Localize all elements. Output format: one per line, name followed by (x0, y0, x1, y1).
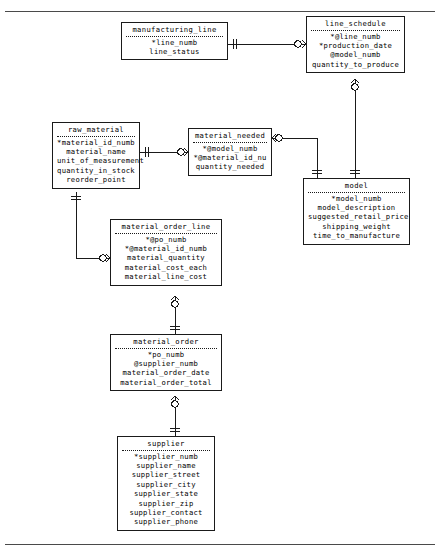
attribute: *material_id_numb (57, 138, 135, 147)
er-diagram-canvas: manufacturing_line *line_numb line_statu… (0, 0, 439, 555)
attribute-list: *supplier_numb supplier_name supplier_st… (122, 451, 210, 527)
entity-material_order_line[interactable]: material_order_line *@po_numb *@material… (110, 219, 222, 286)
entity-manufacturing_line[interactable]: manufacturing_line *line_numb line_statu… (121, 22, 228, 60)
attribute-list: *model_numb model_description suggested_… (308, 193, 405, 241)
entity-model[interactable]: model *model_numb model_description sugg… (303, 178, 410, 245)
attribute: material_quantity (115, 253, 217, 262)
attribute: material_order_date (115, 368, 217, 377)
attribute: quantity_needed (193, 162, 267, 171)
attribute: material_order_total (115, 378, 217, 387)
attribute: reorder_point (57, 175, 135, 184)
entity-name: line_schedule (311, 19, 400, 31)
entity-material_order[interactable]: material_order *po_numb @supplier_numb m… (110, 334, 222, 391)
attribute: supplier_phone (122, 517, 210, 526)
attribute: quantity_to_produce (311, 60, 400, 69)
attribute-list: *@line_numb *production_date @model_numb… (311, 31, 400, 70)
attribute: material_cost_each (115, 263, 217, 272)
entity-name: material_order (115, 337, 217, 349)
attribute: *@model_numb (193, 144, 267, 153)
attribute: quantity_in_stock (57, 166, 135, 175)
attribute: material_name (57, 147, 135, 156)
entity-name: supplier (122, 439, 210, 451)
attribute: *line_numb (126, 38, 223, 47)
attribute-list: *@po_numb *@material_id_numb material_qu… (115, 234, 217, 282)
attribute: *supplier_numb (122, 452, 210, 461)
attribute: *@po_numb (115, 235, 217, 244)
attribute: model_description (308, 203, 405, 212)
entity-name: raw_material (57, 125, 135, 137)
attribute: supplier_contact (122, 508, 210, 517)
attribute: *@material_id_numb (115, 244, 217, 253)
attribute-list: *@model_numb *@material_id_nu quantity_n… (193, 143, 267, 172)
attribute-list: *line_numb line_status (126, 37, 223, 57)
attribute: @supplier_numb (115, 359, 217, 368)
entity-line_schedule[interactable]: line_schedule *@line_numb *production_da… (306, 16, 405, 73)
attribute: *model_numb (308, 194, 405, 203)
attribute: *production_date (311, 41, 400, 50)
attribute: @model_numb (311, 50, 400, 59)
entity-supplier[interactable]: supplier *supplier_numb supplier_name su… (117, 436, 215, 531)
attribute: line_status (126, 47, 223, 56)
attribute: *@line_numb (311, 32, 400, 41)
attribute-list: *po_numb @supplier_numb material_order_d… (115, 349, 217, 388)
attribute: shipping_weight (308, 222, 405, 231)
attribute: supplier_zip (122, 499, 210, 508)
attribute-list: *material_id_numb material_name unit_of_… (57, 137, 135, 185)
entity-name: material_needed (193, 131, 267, 143)
entity-name: manufacturing_line (126, 25, 223, 37)
attribute: supplier_name (122, 461, 210, 470)
attribute: supplier_city (122, 480, 210, 489)
entity-name: material_order_line (115, 222, 217, 234)
attribute: unit_of_measurement (57, 156, 135, 165)
attribute: material_line_cost (115, 272, 217, 281)
attribute: supplier_state (122, 489, 210, 498)
entity-material_needed[interactable]: material_needed *@model_numb *@material_… (188, 128, 272, 176)
attribute: time_to_manufacture (308, 231, 405, 240)
attribute: *po_numb (115, 350, 217, 359)
attribute: *@material_id_nu (193, 153, 267, 162)
entity-raw_material[interactable]: raw_material *material_id_numb material_… (52, 122, 140, 189)
entity-name: model (308, 181, 405, 193)
attribute: supplier_street (122, 470, 210, 479)
attribute: suggested_retail_price (308, 212, 405, 221)
